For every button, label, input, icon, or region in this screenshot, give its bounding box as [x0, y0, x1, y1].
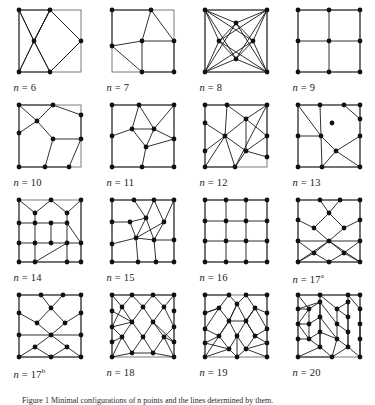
graph-edge [329, 228, 344, 241]
graph-edge [65, 313, 81, 323]
graph-node [243, 260, 248, 265]
graph-drawing-n7 [106, 6, 182, 80]
graph-panel-n19: n = 19 [188, 291, 281, 386]
graph-node [202, 341, 207, 346]
graph-edge [146, 200, 154, 218]
graph-node [326, 39, 331, 44]
graph-drawing-n6 [13, 6, 89, 80]
panel-grid: n = 6n = 7n = 8n = 9n = 10n = 11n = 12n … [0, 6, 375, 386]
graph-node [295, 8, 300, 13]
graph-edge [19, 347, 35, 357]
graph-edge [136, 238, 154, 240]
graph-panel-n7: n = 7 [95, 6, 188, 101]
graph-edge [320, 105, 321, 136]
graph-node [233, 21, 238, 26]
graph-node [250, 39, 255, 44]
graph-edge [225, 136, 246, 151]
graph-node [202, 311, 207, 316]
graph-edge [344, 105, 360, 119]
graph-edge [51, 323, 65, 335]
graph-node [202, 293, 207, 298]
graph-panel-n18: n = 18 [95, 291, 188, 386]
graph-drawing-n14 [13, 196, 89, 270]
graph-node [140, 305, 145, 310]
graph-edge [205, 10, 236, 59]
graph-edge [229, 304, 237, 321]
graph-node [64, 345, 69, 350]
graph-edge [51, 200, 67, 213]
graph-edge [151, 10, 174, 41]
graph-node [48, 198, 53, 203]
graph-node [47, 8, 52, 13]
graph-edge [235, 151, 246, 167]
edge-group [112, 295, 174, 357]
panel-border [112, 295, 174, 357]
graph-node [131, 198, 136, 203]
graph-edge [229, 321, 237, 336]
graph-node [64, 221, 69, 226]
graph-edge [344, 220, 360, 228]
graph-node [202, 355, 207, 360]
graph-node [129, 127, 134, 132]
graph-node [171, 293, 176, 298]
graph-node [317, 198, 322, 203]
graph-node [171, 198, 176, 203]
graph-node [129, 293, 134, 298]
graph-edge [164, 200, 174, 222]
graph-node [109, 242, 114, 247]
graph-edge [336, 151, 360, 167]
graph-node [232, 165, 237, 170]
graph-node [306, 337, 311, 342]
graph-edge [153, 307, 164, 322]
graph-edge [298, 241, 314, 253]
graph-node [357, 134, 362, 139]
graph-edge [35, 243, 67, 262]
graph-node [16, 103, 21, 108]
edge-group [19, 10, 81, 72]
graph-edge [219, 321, 229, 336]
graph-node [202, 8, 207, 13]
graph-drawing-n12 [199, 101, 275, 175]
graph-node [357, 218, 362, 223]
graph-edge [336, 136, 360, 151]
graph-node [264, 134, 269, 139]
node-group [202, 198, 269, 265]
graph-edge [236, 10, 267, 59]
graph-node [109, 325, 114, 330]
graph-node [171, 103, 176, 108]
graph-edge [50, 10, 81, 41]
graph-node [295, 322, 300, 327]
graph-node [171, 355, 176, 360]
panel-border [298, 200, 360, 262]
graph-node [109, 165, 114, 170]
graph-edge [321, 136, 322, 167]
graph-node [109, 8, 114, 13]
graph-node [357, 260, 362, 265]
graph-edge [53, 105, 81, 115]
graph-edge [19, 313, 37, 323]
graph-node [47, 70, 52, 75]
panel-border [205, 10, 267, 72]
graph-node [295, 260, 300, 265]
graph-node [264, 70, 269, 75]
graph-node [264, 219, 269, 224]
panel-label-n10: n = 10 [14, 177, 42, 188]
graph-node [119, 305, 124, 310]
graph-node [171, 137, 176, 142]
graph-node [326, 260, 331, 265]
graph-edge [19, 200, 35, 213]
graph-panel-n15: n = 15 [95, 196, 188, 291]
graph-edge [153, 295, 164, 307]
graph-edge [143, 307, 153, 322]
graph-node [78, 137, 83, 142]
graph-node [326, 70, 331, 75]
graph-edge [142, 10, 151, 41]
graph-edge [112, 129, 132, 136]
graph-edge [51, 347, 67, 357]
graph-node [139, 70, 144, 75]
panel-label-n17a: n = 17a [293, 272, 324, 285]
graph-edge [314, 228, 329, 241]
graph-edge [153, 337, 164, 353]
graph-node [243, 293, 248, 298]
graph-node [334, 322, 339, 327]
